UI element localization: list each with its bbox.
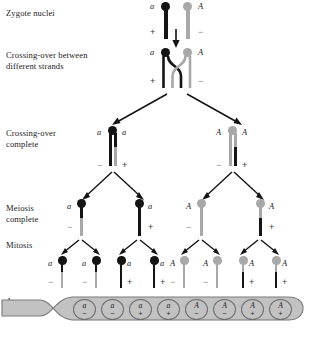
- spore: a −: [73, 299, 96, 320]
- spore-sign: −: [194, 310, 198, 317]
- ascus-outline: [0, 0, 310, 338]
- spore-sign: +: [250, 310, 254, 317]
- spore: a +: [129, 299, 152, 320]
- spore: a +: [157, 299, 180, 320]
- spore-sign: −: [82, 310, 86, 317]
- spore-sign: −: [222, 310, 226, 317]
- spore-sign: +: [278, 310, 282, 317]
- figure-canvas: Zygote nuclei Crossing-over between diff…: [0, 0, 310, 338]
- spore: a −: [101, 299, 124, 320]
- spore-sign: −: [110, 310, 114, 317]
- spore: A +: [241, 299, 264, 320]
- spore-sign: +: [138, 310, 142, 317]
- spore: A +: [269, 299, 292, 320]
- spore-sign: +: [166, 310, 170, 317]
- spore: A −: [213, 299, 236, 320]
- spore: A −: [185, 299, 208, 320]
